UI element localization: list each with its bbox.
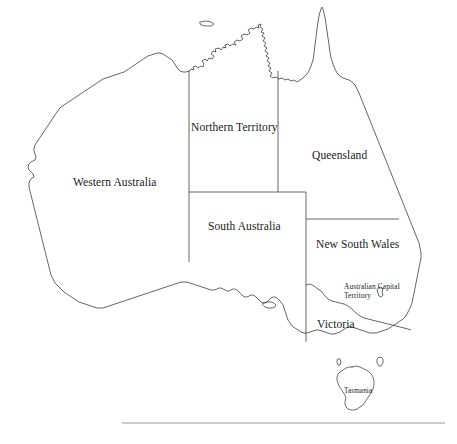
flinders-island: [377, 357, 383, 366]
label-new-south-wales: New South Wales: [316, 238, 399, 251]
kangaroo-island: [263, 302, 276, 308]
australia-map-container: Western Australia Northern Territory Que…: [0, 0, 457, 444]
label-south-australia: South Australia: [208, 220, 281, 233]
label-act-line-2: Territory: [344, 292, 371, 300]
melville-island: [200, 21, 214, 26]
label-victoria: Victoria: [317, 318, 355, 331]
label-tasmania: Tasmania: [344, 387, 372, 395]
label-western-australia: Western Australia: [73, 176, 157, 189]
king-island: [337, 359, 341, 365]
label-queensland: Queensland: [312, 149, 367, 162]
label-northern-territory: Northern Territory: [191, 121, 278, 134]
